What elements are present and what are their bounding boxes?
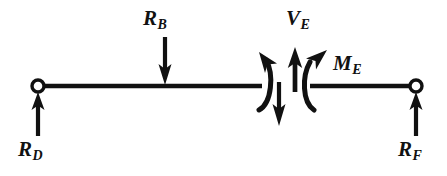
shear-arrow-ve-left xyxy=(273,82,286,126)
label-me-symbol: M xyxy=(333,51,352,75)
label-me-subscript: E xyxy=(352,62,361,77)
force-arrow-rd xyxy=(32,92,45,136)
label-moment-me: ME xyxy=(333,53,362,77)
label-reaction-rd: RD xyxy=(18,139,43,163)
beam-free-body-diagram: RD RB VE ME RF xyxy=(0,0,447,176)
moment-arrow-me-right xyxy=(304,50,327,110)
label-rf-subscript: F xyxy=(413,148,422,163)
label-shear-ve: VE xyxy=(286,8,310,32)
label-rb-subscript: B xyxy=(158,17,167,32)
label-load-rb: RB xyxy=(143,8,167,32)
label-rd-symbol: R xyxy=(18,137,32,161)
label-rb-symbol: R xyxy=(143,6,157,30)
label-ve-subscript: E xyxy=(301,17,310,32)
support-pin-d-icon xyxy=(32,80,44,92)
moment-arrow-me-left xyxy=(259,52,277,110)
support-pin-f-icon xyxy=(410,80,422,92)
label-ve-symbol: V xyxy=(286,6,300,30)
label-rd-subscript: D xyxy=(33,148,43,163)
label-rf-symbol: R xyxy=(398,137,412,161)
shear-arrow-ve-right xyxy=(288,47,302,92)
label-reaction-rf: RF xyxy=(398,139,422,163)
diagram-canvas xyxy=(0,0,447,176)
force-arrow-rb xyxy=(159,37,172,85)
force-arrow-rf xyxy=(410,92,423,136)
